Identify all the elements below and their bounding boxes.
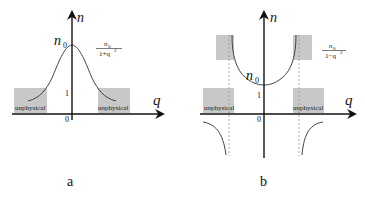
svg-text:0: 0: [63, 41, 67, 50]
svg-text:1−q: 1−q: [325, 52, 336, 60]
svg-text:n: n: [54, 33, 61, 48]
diagram-canvas: unphysical unphysical n q n 0 1 0 n 0 1+…: [0, 0, 365, 198]
lower-left-branch: [203, 122, 226, 155]
y-axis-label: n: [77, 10, 84, 25]
tick-one-label: 1: [65, 89, 69, 98]
formula-inverse: n 0 1−q 2: [322, 42, 346, 60]
unphysical-region-upper-left: [216, 35, 234, 60]
unphysical-label-right: unphysical: [98, 104, 128, 112]
unphysical-label-left: unphysical: [15, 104, 45, 112]
panel-b: unphysical unphysical n q n 0 1 0 n 0 1−…: [200, 10, 355, 189]
origin-label: 0: [65, 115, 69, 124]
min-label: n 0: [246, 68, 259, 85]
peak-label: n 0: [54, 33, 67, 50]
unphysical-label-left: unphysical: [204, 104, 234, 112]
panel-label-a: a: [67, 174, 74, 189]
unphysical-label-right: unphysical: [293, 104, 323, 112]
panel-label-b: b: [260, 174, 267, 189]
x-axis-label: q: [153, 92, 161, 108]
panel-a: unphysical unphysical n q n 0 1 0 n 0 1+…: [12, 10, 163, 189]
svg-text:n: n: [246, 68, 253, 83]
svg-text:1+q: 1+q: [99, 50, 110, 58]
lower-right-branch: [302, 122, 323, 155]
origin-label: 0: [257, 115, 261, 124]
y-axis-label: n: [270, 10, 277, 25]
tick-one-label: 1: [257, 91, 261, 100]
svg-text:0: 0: [255, 76, 259, 85]
formula-lorentzian: n 0 1+q 2: [96, 40, 122, 58]
x-axis-label: q: [345, 92, 353, 108]
